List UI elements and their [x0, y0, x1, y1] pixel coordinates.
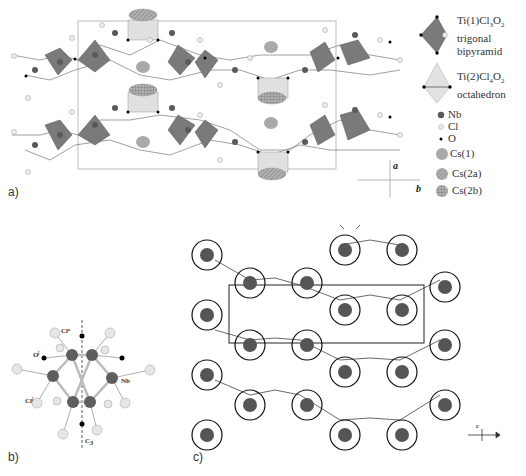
- label-o-i: Oⁱ: [33, 351, 39, 359]
- legend-ti1-shape: [419, 15, 447, 54]
- axis-a-label: a: [393, 160, 398, 171]
- legend-ti1-sub2: 2: [501, 21, 505, 29]
- panel-label-c: c): [193, 450, 203, 464]
- label-c3-axis: C3: [85, 437, 93, 447]
- legend-ti2-shape: [422, 63, 451, 103]
- panel-a-structure: [0, 0, 526, 476]
- legend-cs2b: Cs(2b): [452, 184, 482, 197]
- axes-c: [468, 429, 500, 441]
- legend-ti1-formula: Ti(1)Cl: [457, 14, 490, 26]
- panel-b-cluster: [12, 320, 155, 450]
- legend-ti1-mid: O: [493, 14, 501, 26]
- legend-ti2: Ti(2)Cl4O2 octahedron: [457, 70, 506, 101]
- axis-b-label: b: [416, 183, 421, 194]
- legend-ti1: Ti(1)Cl3O2 trigonal bipyramid: [457, 14, 505, 58]
- axes-a: [358, 160, 420, 198]
- legend-ti2-desc1: octahedron: [457, 88, 506, 100]
- legend-ti2-sub2: 2: [501, 77, 505, 85]
- label-nb: Nb: [121, 377, 130, 385]
- legend-ti2-formula: Ti(2)Cl: [457, 70, 490, 82]
- legend-cs2a: Cs(2a): [452, 167, 481, 180]
- legend-cs1: Cs(1): [450, 147, 474, 160]
- panel-label-a: a): [8, 185, 19, 199]
- legend-ti2-mid: O: [493, 70, 501, 82]
- legend-o: O: [448, 132, 456, 145]
- label-c3-sub: 3: [90, 439, 94, 447]
- label-cl-a: Clᵃ: [61, 327, 70, 335]
- axis-c-label: c: [476, 422, 479, 430]
- label-cl-i: Clⁱ: [25, 397, 33, 405]
- legend-ti1-desc1: trigonal: [457, 32, 491, 44]
- legend-ti1-desc2: bipyramid: [457, 45, 502, 57]
- panel-label-b: b): [8, 450, 19, 464]
- panel-c-packing: [192, 225, 500, 450]
